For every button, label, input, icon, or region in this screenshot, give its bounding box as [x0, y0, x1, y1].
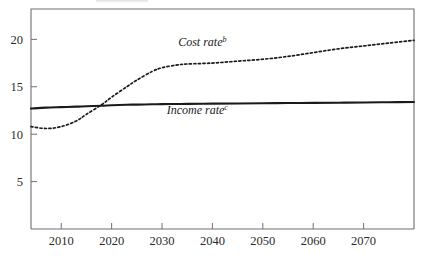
- tick-marks-group: [31, 39, 364, 229]
- x-tick-label: 2060: [301, 234, 326, 248]
- rate-comparison-line-chart: 5101520 2010202020302040205020602070 Cos…: [0, 0, 428, 267]
- y-tick-label: 20: [11, 33, 24, 47]
- y-tick-label: 5: [17, 175, 23, 189]
- y-tick-label: 15: [11, 80, 24, 94]
- x-tick-label: 2050: [250, 234, 275, 248]
- x-tick-label: 2010: [49, 234, 74, 248]
- x-tick-label: 2030: [150, 234, 175, 248]
- series-label-income-rate: Income ratec: [166, 103, 229, 117]
- x-axis-tick-labels: 2010202020302040205020602070: [49, 234, 376, 248]
- cropped-title-artifact: [96, 0, 148, 3]
- y-tick-label: 10: [11, 128, 24, 142]
- x-tick-label: 2020: [99, 234, 124, 248]
- chart-container: 5101520 2010202020302040205020602070 Cos…: [0, 0, 428, 267]
- x-tick-label: 2040: [200, 234, 225, 248]
- series-annotation-labels: Cost ratebIncome ratec: [166, 35, 229, 117]
- y-axis-tick-labels: 5101520: [11, 33, 24, 189]
- x-tick-label: 2070: [351, 234, 376, 248]
- series-label-cost-rate: Cost rateb: [178, 35, 226, 49]
